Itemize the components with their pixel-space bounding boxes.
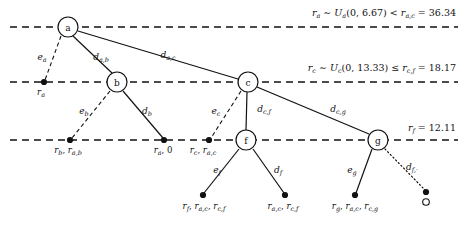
leaf-marker-b	[67, 137, 73, 143]
edge-label-eb: eb	[79, 106, 88, 118]
edge-dcg	[257, 87, 369, 134]
level-annotation-a: ra ∼ Ua(0, 6.67) < ra,c = 36.34	[312, 7, 456, 20]
leaf-marker-db	[161, 137, 167, 143]
node-g[interactable]: g	[368, 130, 388, 150]
leaf-marker-c	[206, 137, 212, 143]
tree-diagram-svg: a b c f g ea da	[0, 0, 473, 226]
node-a-label: a	[65, 23, 71, 33]
leaf-label-eg: rg, ra,c, rc,g	[332, 201, 378, 213]
leaf-label-ef: rf, ra,c, rc,f	[183, 201, 227, 213]
leaf-marker-ra	[41, 79, 47, 85]
leaf-labels: ra rb, ra,b ra, 0 rc, ra,c rf, ra,c, rc,…	[37, 87, 378, 213]
leaf-label-c: rc, ra,c	[190, 145, 217, 157]
edge-label-df: df	[274, 165, 284, 177]
level-annotation-c: rc ∼ Uc(0, 13.33) ≤ rc,f = 18.17	[308, 62, 456, 75]
edge-label-ec: ec	[212, 106, 221, 118]
edge-eb	[72, 91, 110, 138]
edge-eg	[356, 149, 372, 193]
edge-label-dcf: dc,f	[257, 104, 272, 116]
leaf-marker-open-circle	[423, 199, 430, 206]
edge-label-dcg: dc,g	[330, 104, 345, 116]
leaf-marker-df	[282, 192, 288, 198]
leaf-label-b: rb, ra,b	[54, 145, 82, 157]
edge-label-dab: da,b	[93, 52, 109, 64]
node-c[interactable]: c	[238, 72, 258, 92]
edge-ea	[45, 36, 61, 80]
edge-dcf	[246, 92, 247, 130]
node-g-label: g	[375, 136, 381, 146]
level-annotation-f: rf = 12.11	[408, 122, 456, 135]
level-lines	[10, 27, 458, 140]
node-b[interactable]: b	[107, 72, 127, 92]
nodes: a b c f g	[58, 17, 388, 150]
figure-canvas: a b c f g ea da	[0, 0, 473, 226]
edge-dfdot	[385, 149, 425, 190]
leaf-marker-dfdot-filled	[423, 189, 429, 195]
node-f[interactable]: f	[236, 130, 256, 150]
edge-label-eg: eg	[347, 165, 356, 177]
node-c-label: c	[245, 78, 250, 88]
node-a[interactable]: a	[58, 17, 78, 37]
leaf-marker-eg	[352, 192, 358, 198]
leaf-label-df: ra,c, rc,f	[268, 201, 301, 213]
node-b-label: b	[114, 78, 120, 88]
edge-dac	[78, 31, 238, 79]
edge-label-df-dot: df,·	[406, 162, 418, 174]
leaf-label-ra: ra	[37, 87, 45, 99]
leaf-marker-ef	[200, 192, 206, 198]
edge-label-db: db	[142, 106, 152, 118]
leaf-label-db: ra, 0	[154, 145, 173, 157]
edge-label-dac: da,c	[160, 50, 176, 62]
edge-label-ea: ea	[37, 52, 46, 64]
